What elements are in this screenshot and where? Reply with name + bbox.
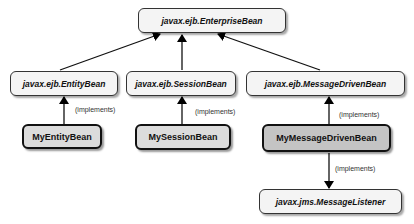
node-entity-bean-label: javax.ejb.EntityBean <box>23 79 106 89</box>
node-my-message-driven-bean-label: MyMessageDrivenBean <box>276 133 377 143</box>
edge-label-mdb-implements: (implements) <box>339 111 379 118</box>
node-message-listener: javax.jms.MessageListener <box>259 189 402 214</box>
node-session-bean-label: javax.ejb.SessionBean <box>135 79 227 89</box>
edge-label-entity-implements: (implements) <box>75 106 115 113</box>
node-my-message-driven-bean: MyMessageDrivenBean <box>262 124 391 152</box>
node-my-entity-bean: MyEntityBean <box>22 124 102 149</box>
node-my-entity-bean-label: MyEntityBean <box>32 132 92 142</box>
edge-mdb-to-enterprise <box>218 34 320 70</box>
node-message-listener-label: javax.jms.MessageListener <box>276 197 386 207</box>
node-enterprise-bean: javax.ejb.EnterpriseBean <box>138 8 286 33</box>
node-session-bean: javax.ejb.SessionBean <box>126 71 236 96</box>
edge-entity-to-enterprise <box>60 34 160 70</box>
edge-label-session-implements: (implements) <box>195 108 235 115</box>
node-my-session-bean-label: MySessionBean <box>148 132 217 142</box>
edge-label-listener-implements: (implements) <box>335 165 375 172</box>
node-entity-bean: javax.ejb.EntityBean <box>10 71 118 96</box>
node-message-driven-bean-label: javax.ejb.MessageDrivenBean <box>265 79 386 89</box>
node-message-driven-bean: javax.ejb.MessageDrivenBean <box>246 71 405 96</box>
node-my-session-bean: MySessionBean <box>135 124 231 150</box>
node-enterprise-bean-label: javax.ejb.EnterpriseBean <box>161 16 262 26</box>
